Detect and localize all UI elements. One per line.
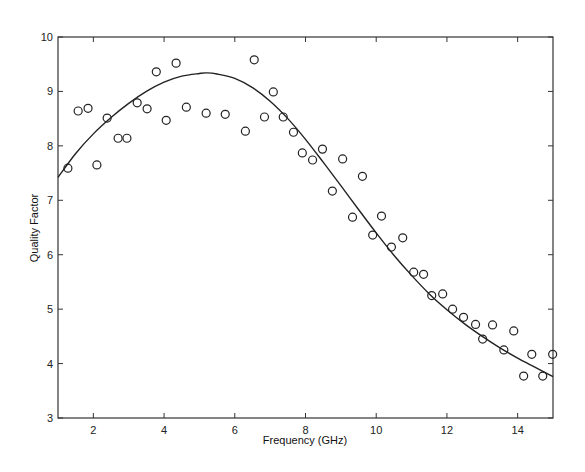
data-point-marker [162,116,170,124]
data-point-marker [260,113,268,121]
fit-line [58,73,553,377]
data-point-marker [241,127,249,135]
data-point-marker [520,372,528,380]
data-point-marker [84,104,92,112]
data-point-marker [172,59,180,67]
data-point-marker [182,103,190,111]
x-tick-label: 12 [441,424,453,436]
data-point-marker [202,109,210,117]
y-tick-label: 4 [47,358,53,370]
data-point-marker [420,270,428,278]
y-tick-label: 5 [47,303,53,315]
y-tick-label: 6 [47,249,53,261]
data-point-marker [410,268,418,276]
data-point-marker [114,134,122,142]
plot-frame [58,37,553,418]
data-point-marker [339,155,347,163]
x-tick-label: 2 [90,424,96,436]
data-point-marker [378,212,386,220]
data-point-marker [269,88,277,96]
x-tick-label: 6 [232,424,238,436]
data-point-marker [369,231,377,239]
chart: 2468101214345678910 Frequency (GHz) Qual… [0,0,585,472]
y-tick-label: 3 [47,412,53,424]
data-point-marker [318,145,326,153]
x-tick-label: 4 [161,424,167,436]
x-tick-label: 10 [370,424,382,436]
data-point-marker [399,234,407,242]
x-tick-label: 14 [512,424,524,436]
x-axis-title: Frequency (GHz) [263,434,347,446]
y-tick-label: 7 [47,194,53,206]
data-point-marker [328,187,336,195]
data-point-marker [133,99,141,107]
data-point-marker [289,128,297,136]
data-point-marker [439,290,447,298]
data-point-marker [358,172,366,180]
data-point-marker [143,105,151,113]
data-point-marker [489,321,497,329]
data-point-marker [539,372,547,380]
y-axis-title: Quality Factor [28,193,40,262]
data-point-marker [528,350,536,358]
plot-border [58,37,553,418]
data-point-marker [460,313,468,321]
data-point-marker [510,327,518,335]
data-markers [64,56,557,380]
fit-curve [58,73,553,377]
y-tick-label: 8 [47,140,53,152]
data-point-marker [93,161,101,169]
data-point-marker [123,134,131,142]
data-point-marker [309,156,317,164]
data-point-marker [387,243,395,251]
axis-ticks: 2468101214345678910 [41,31,553,436]
data-point-marker [152,68,160,76]
data-point-marker [449,305,457,313]
data-point-marker [472,320,480,328]
data-point-marker [221,110,229,118]
y-tick-label: 9 [47,85,53,97]
data-point-marker [298,149,306,157]
data-point-marker [349,213,357,221]
y-tick-label: 10 [41,31,53,43]
data-point-marker [74,107,82,115]
data-point-marker [250,56,258,64]
